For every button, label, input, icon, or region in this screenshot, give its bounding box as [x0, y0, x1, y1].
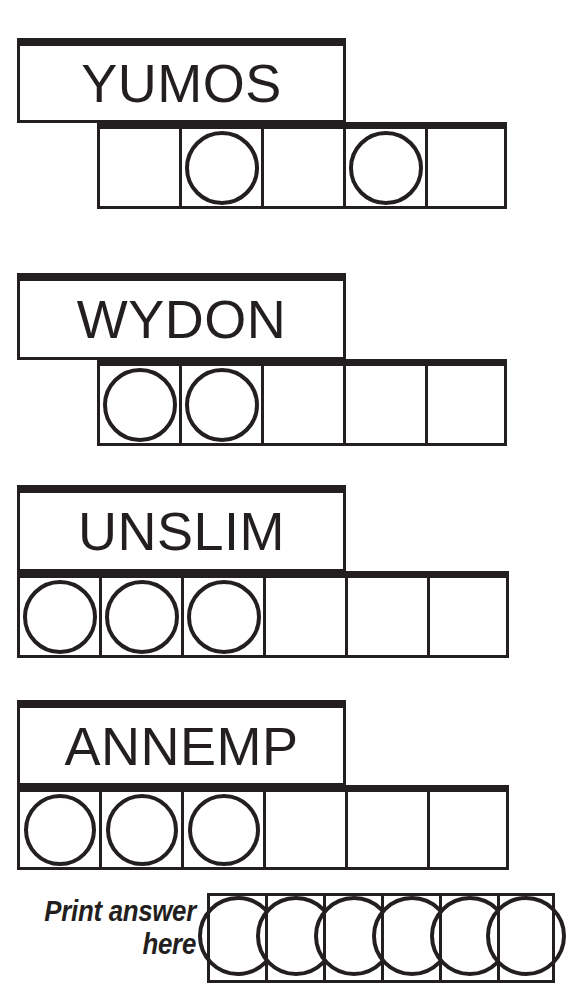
letter-cell[interactable] — [345, 571, 427, 658]
letter-cell[interactable] — [425, 122, 507, 209]
circle-marker-icon — [187, 580, 261, 654]
letter-cell-strip-1 — [97, 122, 507, 209]
letter-cell-strip-2 — [97, 359, 507, 446]
letter-cell[interactable] — [425, 359, 507, 446]
letter-cell[interactable] — [343, 122, 425, 209]
scrambled-word-box-2[interactable]: WYDON — [17, 273, 346, 360]
circle-marker-icon — [103, 368, 177, 442]
letter-cell[interactable] — [427, 571, 509, 658]
letter-cell[interactable] — [99, 571, 181, 658]
letter-cell[interactable] — [261, 122, 343, 209]
circle-marker-icon — [185, 131, 259, 205]
scrambled-word-2: WYDON — [77, 292, 286, 346]
letter-cell[interactable] — [17, 785, 99, 870]
scrambled-word-1: YUMOS — [81, 56, 282, 110]
circle-marker-icon — [486, 896, 566, 976]
print-answer-here-line1: Print answer — [44, 894, 196, 927]
letter-cell[interactable] — [179, 122, 261, 209]
letter-cell[interactable] — [263, 785, 345, 870]
answer-area: Print answer here — [0, 880, 529, 983]
letter-cell[interactable] — [97, 122, 179, 209]
letter-cell[interactable] — [17, 571, 99, 658]
letter-cell[interactable] — [263, 571, 345, 658]
jumble-row-2: WYDON — [0, 235, 529, 450]
print-answer-here-line2: here — [143, 927, 196, 960]
scrambled-word-box-4[interactable]: ANNEMP — [17, 700, 346, 786]
circle-marker-icon — [105, 580, 179, 654]
letter-cell-strip-3 — [17, 571, 509, 658]
letter-cell[interactable] — [345, 785, 427, 870]
letter-cell[interactable] — [179, 359, 261, 446]
print-answer-here-label: Print answer here — [27, 894, 196, 960]
answer-cell[interactable] — [497, 893, 555, 983]
scrambled-word-4: ANNEMP — [64, 719, 298, 773]
letter-cell[interactable] — [97, 359, 179, 446]
jumble-row-1: YUMOS — [0, 0, 529, 215]
letter-cell[interactable] — [181, 785, 263, 870]
circle-marker-icon — [349, 131, 423, 205]
circle-marker-icon — [106, 794, 178, 866]
circle-marker-icon — [188, 794, 260, 866]
letter-cell[interactable] — [343, 359, 425, 446]
letter-cell[interactable] — [181, 571, 263, 658]
circle-marker-icon — [185, 368, 259, 442]
letter-cell-strip-4 — [17, 785, 509, 870]
letter-cell[interactable] — [427, 785, 509, 870]
scrambled-word-box-3[interactable]: UNSLIM — [17, 485, 346, 572]
circle-marker-icon — [23, 580, 97, 654]
letter-cell[interactable] — [261, 359, 343, 446]
circle-marker-icon — [24, 794, 96, 866]
jumble-row-3: UNSLIM — [0, 450, 529, 670]
letter-cell[interactable] — [99, 785, 181, 870]
scrambled-word-3: UNSLIM — [78, 504, 285, 558]
jumble-row-4: ANNEMP — [0, 665, 529, 880]
scrambled-word-box-1[interactable]: YUMOS — [17, 38, 346, 123]
answer-cell-strip — [207, 893, 555, 983]
